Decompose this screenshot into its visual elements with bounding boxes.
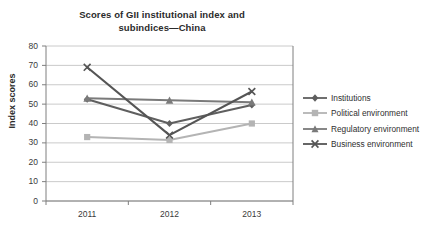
legend-item-institutions[interactable]: Institutions	[302, 90, 432, 106]
legend-item-political-environment[interactable]: Political environment	[302, 106, 432, 122]
data-point-marker	[166, 120, 173, 127]
data-point-marker	[84, 64, 91, 71]
legend-marker-square-icon	[302, 106, 328, 120]
legend-label-business-environment: Business environment	[328, 139, 413, 149]
data-point-marker	[248, 88, 255, 95]
legend-label-regulatory-environment: Regulatory environment	[328, 124, 419, 134]
chart-container: Scores of GII institutional index and su…	[0, 0, 434, 236]
legend-item-business-environment[interactable]: Business environment	[302, 137, 432, 153]
chart-legend: Institutions Political environment Regul…	[302, 90, 432, 152]
legend-label-political-environment: Political environment	[328, 108, 408, 118]
legend-marker-diamond-icon	[302, 91, 328, 105]
data-point-marker	[249, 120, 255, 126]
data-point-marker	[84, 134, 90, 140]
legend-label-institutions: Institutions	[328, 93, 371, 103]
legend-item-regulatory-environment[interactable]: Regulatory environment	[302, 121, 432, 137]
legend-marker-x-icon	[302, 137, 328, 151]
legend-marker-triangle-icon	[302, 122, 328, 136]
